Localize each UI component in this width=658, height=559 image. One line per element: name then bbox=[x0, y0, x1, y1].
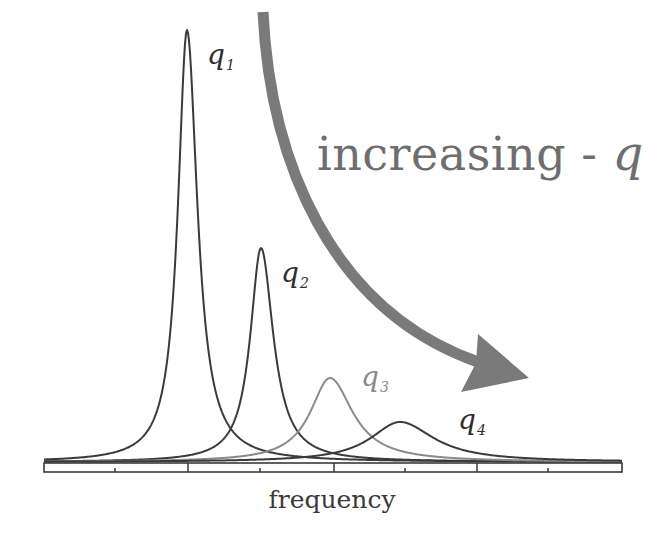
x-axis bbox=[44, 463, 622, 472]
label-q2: q2 bbox=[281, 256, 309, 291]
arrow-shaft bbox=[263, 12, 478, 362]
x-axis-bar bbox=[44, 463, 622, 472]
annotation-text: increasing - bbox=[317, 127, 612, 181]
increasing-q-arrow bbox=[263, 12, 529, 392]
curve-q3 bbox=[44, 378, 622, 461]
increasing-q-annotation: increasing - q bbox=[317, 125, 644, 181]
label-q1: q1 bbox=[207, 38, 235, 73]
curve-q4 bbox=[44, 422, 622, 462]
x-axis-label: frequency bbox=[268, 485, 396, 514]
resonance-chart: increasing - q q1 q2 q3 q4 frequency bbox=[0, 0, 658, 559]
label-q3: q3 bbox=[361, 360, 389, 395]
label-q4: q4 bbox=[458, 403, 486, 438]
annotation-symbol: q bbox=[612, 125, 643, 181]
curve-q2 bbox=[44, 248, 622, 462]
